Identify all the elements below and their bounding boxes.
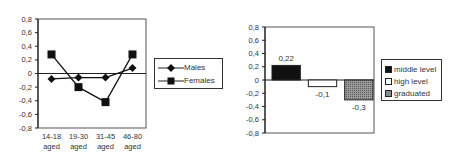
svg-text:0,4: 0,4 [22,42,32,51]
svg-text:0: 0 [28,69,32,78]
svg-text:0,2: 0,2 [249,62,259,71]
svg-text:aged: aged [43,142,60,151]
diamond-marker-icon [158,63,184,73]
legend-label-females: Females [184,76,215,85]
education-bar-chart: 0,80,60,40,20-0,2-0,4-0,6-0,80,22-0,1-0,… [230,0,456,164]
legend-item-graduated: graduated [385,87,438,99]
svg-text:14-18: 14-18 [42,132,61,141]
svg-text:0,8: 0,8 [22,15,32,24]
svg-text:-0,4: -0,4 [19,96,32,105]
svg-text:0,8: 0,8 [249,23,259,32]
svg-text:0,4: 0,4 [249,49,259,58]
legend-item-middle-level: middle level [385,63,438,75]
legend-label-graduated: graduated [394,89,430,98]
svg-text:0: 0 [255,76,259,85]
legend-label-high-level: high level [394,77,428,86]
svg-text:-0,2: -0,2 [19,83,32,92]
legend-item-high-level: high level [385,75,438,87]
svg-text:0,6: 0,6 [22,28,32,37]
legend-label-males: Males [184,63,205,72]
square-marker-icon [158,76,184,86]
legend-item-males: Males [158,61,219,74]
svg-text:-0,3: -0,3 [352,103,366,112]
svg-text:-0,8: -0,8 [246,129,259,138]
svg-text:-0,8: -0,8 [19,124,32,133]
svg-text:31-45: 31-45 [96,132,115,141]
age-chart-legend: Males Females [154,58,223,89]
svg-text:-0,1: -0,1 [316,90,330,99]
svg-text:aged: aged [124,142,141,151]
svg-text:46-80: 46-80 [123,132,142,141]
svg-text:0,6: 0,6 [249,36,259,45]
graduated-swatch-icon [385,90,392,97]
legend-label-middle-level: middle level [394,65,436,74]
high-level-swatch-icon [385,78,392,85]
svg-text:aged: aged [97,142,114,151]
svg-text:19-30: 19-30 [69,132,88,141]
legend-item-females: Females [158,74,219,87]
svg-text:-0,6: -0,6 [19,110,32,119]
svg-text:aged: aged [70,142,87,151]
age-line-chart: 0,80,60,40,20-0,2-0,4-0,6-0,814-18aged19… [0,0,230,164]
svg-text:-0,2: -0,2 [246,89,259,98]
svg-text:-0,6: -0,6 [246,115,259,124]
middle-level-swatch-icon [385,66,392,73]
svg-text:0,2: 0,2 [22,55,32,64]
svg-text:0,22: 0,22 [278,54,294,63]
svg-text:-0,4: -0,4 [246,102,259,111]
education-chart-legend: middle level high level graduated [381,59,442,101]
